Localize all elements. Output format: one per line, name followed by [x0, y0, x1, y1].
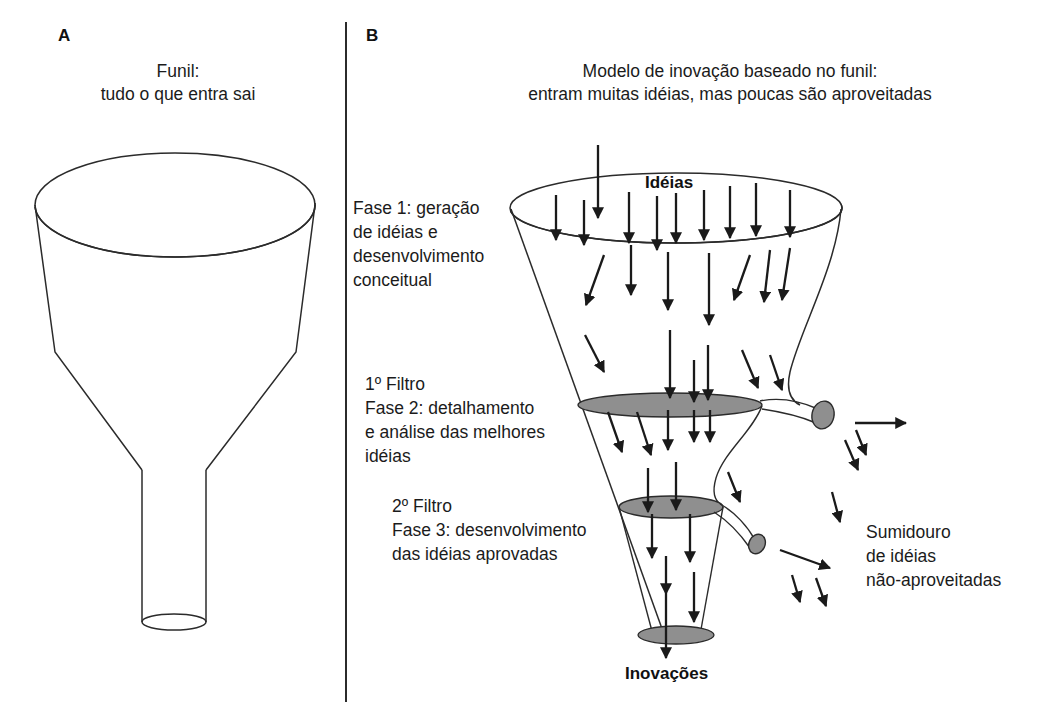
arrow-s7 [816, 578, 826, 606]
arrow-m3 [728, 472, 740, 502]
spout-2-mouth [746, 532, 769, 557]
arrow-u8 [585, 335, 604, 372]
arrow-s6 [792, 575, 800, 602]
bottom-cup-left [619, 507, 653, 635]
funnel-a-wall-left [35, 205, 142, 470]
arrow-s5 [780, 550, 830, 568]
funnel-a [35, 153, 315, 630]
funnel-b-wall-right [788, 209, 841, 405]
funnel-b-midwall-right [714, 406, 762, 506]
funnel-figure [0, 0, 1039, 725]
spout-1-mouth [809, 399, 836, 431]
arrow-u6 [764, 250, 770, 302]
spout-1-lower [762, 409, 816, 423]
arrow-f1-2 [637, 412, 651, 455]
arrow-u7 [782, 248, 790, 300]
arrows-to-sink [780, 423, 906, 606]
funnel-a-rim-inner [35, 203, 315, 257]
arrow-u11 [742, 350, 758, 388]
arrow-u1 [586, 255, 604, 305]
arrow-u5 [734, 255, 750, 300]
funnel-b [510, 145, 906, 658]
arrow-u12 [770, 355, 782, 390]
filter-2-disc [619, 496, 723, 518]
arrows-upper-cone [585, 245, 790, 402]
arrow-s3 [845, 440, 858, 470]
arrows-into-mouth [556, 145, 790, 250]
arrow-f1-1 [608, 412, 622, 452]
funnel-a-wall-right [206, 205, 315, 470]
arrow-s4 [832, 492, 840, 522]
bottom-cup-right [700, 507, 723, 635]
spout-1-upper [760, 399, 818, 409]
spout-2-upper [720, 504, 755, 540]
funnel-b-wall-left [511, 209, 665, 637]
arrow-s2 [856, 430, 866, 455]
outlet-disc [638, 626, 714, 644]
funnel-a-outlet [142, 614, 206, 630]
